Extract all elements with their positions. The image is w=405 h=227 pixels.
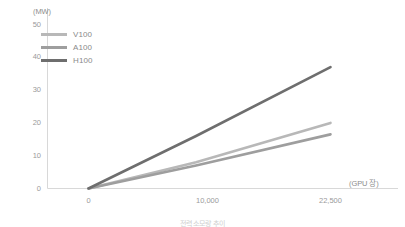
series-line-v100 bbox=[89, 123, 331, 189]
x-axis-tick-label: 0 bbox=[86, 196, 90, 205]
chart-caption: 전력 소모량 추이 bbox=[0, 218, 405, 227]
y-axis-tick-label: 40 bbox=[19, 52, 41, 61]
y-axis-tick-label: 30 bbox=[19, 85, 41, 94]
axis-lines bbox=[48, 8, 399, 189]
legend-item-a100[interactable]: A100 bbox=[41, 41, 93, 54]
legend-swatch-icon bbox=[41, 33, 67, 37]
chart-legend: V100A100H100 bbox=[41, 28, 93, 67]
legend-item-v100[interactable]: V100 bbox=[41, 28, 93, 41]
series-line-a100 bbox=[89, 134, 331, 188]
legend-swatch-icon bbox=[41, 59, 67, 63]
legend-item-label: V100 bbox=[73, 30, 92, 39]
y-axis-tick-label: 0 bbox=[19, 184, 41, 193]
series-lines bbox=[89, 67, 331, 188]
series-line-h100 bbox=[89, 67, 331, 188]
y-axis-tick-label: 50 bbox=[19, 20, 41, 29]
legend-swatch-icon bbox=[41, 46, 67, 50]
y-axis-unit-label: (MW) bbox=[33, 7, 51, 16]
y-axis-tick-label: 10 bbox=[19, 151, 41, 160]
x-axis-tick-label: 22,500 bbox=[319, 196, 342, 205]
x-axis-unit-label: (GPU 장) bbox=[349, 177, 379, 188]
y-axis-tick-label: 20 bbox=[19, 118, 41, 127]
x-axis-tick-label: 10,000 bbox=[196, 196, 219, 205]
legend-item-label: H100 bbox=[73, 56, 93, 65]
chart-container: (MW) (GPU 장) 01020304050 010,00022,500 V… bbox=[0, 0, 405, 227]
legend-item-h100[interactable]: H100 bbox=[41, 54, 93, 67]
legend-item-label: A100 bbox=[73, 43, 92, 52]
